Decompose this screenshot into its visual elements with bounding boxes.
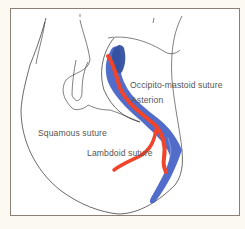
ear-outline [36, 22, 45, 64]
asterion-label: Asterion [131, 95, 163, 105]
skull-diagram [0, 0, 245, 229]
small-tick [153, 18, 154, 23]
auricle-inner-outline [72, 60, 88, 101]
squamous-suture-label: Squamous suture [38, 128, 107, 138]
occipito-mastoid-suture-label: Occipito-mastoid suture [130, 80, 223, 90]
lambdoid-suture-label: Lambdoid suture [87, 148, 153, 158]
skull-outline [21, 18, 182, 214]
